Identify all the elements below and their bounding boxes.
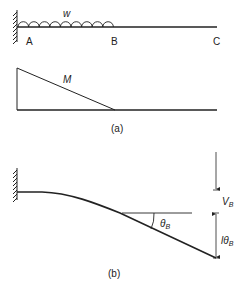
beam-deflection-diagram: w A B C M (a) θB — [0, 0, 250, 290]
point-label-c: C — [213, 36, 220, 47]
fixed-wall-support-a — [13, 10, 17, 44]
caption-b: (b) — [108, 268, 120, 279]
figure-b: θB VB lθB (b) — [13, 152, 234, 279]
caption-a: (a) — [111, 123, 123, 134]
load-label-w: w — [63, 8, 71, 19]
moment-label-m: M — [63, 74, 72, 85]
point-label-a: A — [26, 36, 33, 47]
rotation-deflection-label: lθB — [221, 235, 234, 247]
moment-diagram — [17, 68, 217, 110]
deflection-label-vb: VB — [222, 196, 234, 208]
fixed-wall-support-b — [13, 168, 17, 202]
deflected-beam — [17, 192, 216, 258]
angle-label-theta-b: θB — [160, 218, 170, 230]
figure-a: w A B C M (a) — [13, 8, 220, 134]
deflection-dimension — [213, 152, 219, 258]
point-label-b: B — [111, 36, 118, 47]
angle-arc — [151, 213, 154, 229]
